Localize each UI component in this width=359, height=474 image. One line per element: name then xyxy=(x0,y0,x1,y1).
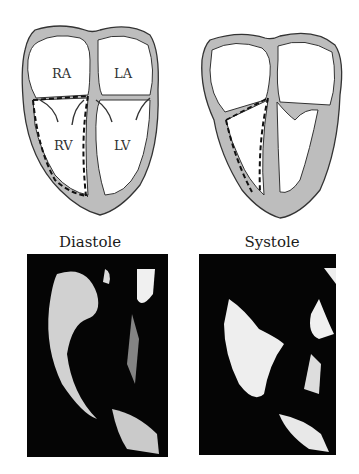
echocardiogram-systole-image xyxy=(199,254,336,455)
echo-systole-svg xyxy=(199,254,336,455)
label-lv: LV xyxy=(114,138,130,153)
echocardiogram-diastole-image xyxy=(27,254,168,457)
systole-heart-diagram xyxy=(180,0,359,230)
phase-label-systole: Systole xyxy=(212,233,332,251)
diastole-heart-diagram: RA LA RV LV xyxy=(0,0,180,230)
echo-diastole-svg xyxy=(27,254,168,457)
systole-heart-svg xyxy=(180,0,359,230)
label-la: LA xyxy=(114,66,132,81)
phase-label-diastole: Diastole xyxy=(30,233,150,251)
label-rv: RV xyxy=(54,138,73,153)
label-ra: RA xyxy=(52,66,71,81)
diastole-heart-svg xyxy=(0,0,180,230)
